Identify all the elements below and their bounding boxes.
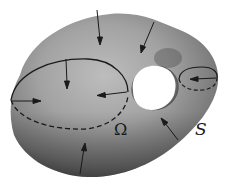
surface-figure: Ω S xyxy=(0,0,229,189)
surface-svg xyxy=(0,0,229,189)
region-label-omega: Ω xyxy=(114,122,127,138)
surface-label-s: S xyxy=(195,121,207,138)
surface-body xyxy=(11,13,219,177)
